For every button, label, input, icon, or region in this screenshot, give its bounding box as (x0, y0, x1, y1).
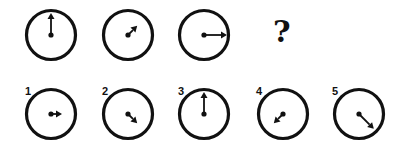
clock-hand-arrow-icon (201, 32, 227, 39)
question-mark: ? (273, 14, 291, 49)
clock-hand-arrow-icon (48, 13, 55, 38)
option-clock-5[interactable] (335, 90, 384, 139)
puzzle-canvas (0, 0, 408, 157)
option-clock-4[interactable] (259, 90, 308, 139)
option-label-2: 2 (102, 85, 108, 97)
sequence-clock-3 (180, 11, 229, 60)
option-label-1: 1 (25, 85, 31, 97)
option-label-3: 3 (178, 85, 184, 97)
sequence-clock-2 (104, 11, 153, 60)
sequence-clock-1 (27, 11, 76, 60)
option-clock-2[interactable] (104, 90, 153, 139)
clock-hand-arrow-icon (48, 111, 62, 118)
option-label-5: 5 (332, 85, 338, 97)
option-label-4: 4 (256, 85, 262, 97)
option-clock-1[interactable] (27, 90, 76, 139)
clock-hand-arrow-icon (201, 92, 208, 117)
clock-hand-arrow-icon (125, 111, 137, 123)
clock-hand-arrow-icon (274, 111, 286, 123)
clock-hand-arrow-icon (125, 26, 137, 38)
clock-hand-arrow-icon (356, 111, 373, 128)
option-clock-3[interactable] (180, 90, 229, 139)
